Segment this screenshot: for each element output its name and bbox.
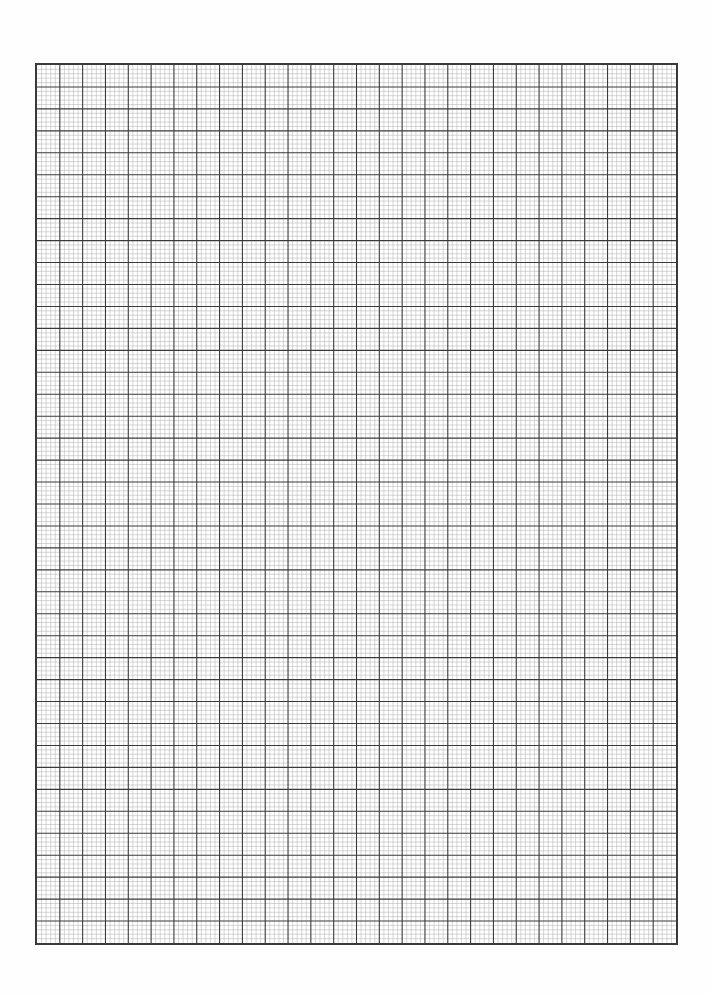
scanned-page <box>0 0 711 995</box>
grid-lines <box>37 65 676 943</box>
graph-paper-grid <box>35 63 678 945</box>
major-grid-lines <box>37 65 676 943</box>
